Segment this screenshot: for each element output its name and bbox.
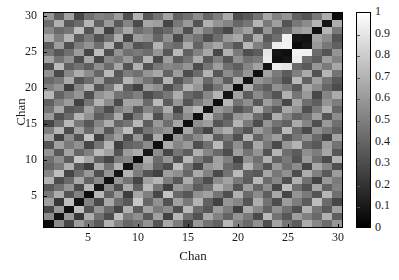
colorbar	[356, 12, 371, 228]
colorbar-tick-label: 0.8	[375, 48, 390, 61]
colorbar-tick-label: 0.6	[375, 91, 390, 104]
colorbar-tick-label: 1	[375, 5, 381, 18]
x-tick-mark	[288, 224, 289, 228]
colorbar-tick-mark	[357, 186, 360, 187]
x-tick-label: 15	[173, 231, 203, 244]
heatmap-plot-area	[43, 12, 343, 228]
y-tick-label: 5	[9, 189, 37, 202]
x-tick-label: 25	[273, 231, 303, 244]
x-tick-label: 10	[123, 231, 153, 244]
y-tick-mark	[43, 160, 47, 161]
colorbar-tick-mark	[357, 207, 360, 208]
heatmap-image	[44, 13, 342, 227]
colorbar-tick-mark	[357, 35, 360, 36]
colorbar-tick-label: 0.1	[375, 199, 390, 212]
colorbar-tick-mark	[357, 121, 360, 122]
x-tick-mark	[238, 224, 239, 228]
colorbar-tick-label: 0.5	[375, 113, 390, 126]
y-tick-label: 30	[9, 9, 37, 22]
y-tick-mark	[43, 196, 47, 197]
colorbar-tick-mark	[357, 56, 360, 57]
y-tick-mark	[43, 16, 47, 17]
y-axis-label: Chan	[13, 52, 29, 172]
colorbar-tick-label: 0.7	[375, 70, 390, 83]
x-tick-label: 20	[223, 231, 253, 244]
x-tick-mark	[138, 224, 139, 228]
x-axis-label: Chan	[43, 248, 343, 264]
y-tick-mark	[43, 52, 47, 53]
colorbar-tick-mark	[357, 99, 360, 100]
colorbar-tick-mark	[357, 78, 360, 79]
colorbar-tick-mark	[357, 143, 360, 144]
x-tick-label: 5	[73, 231, 103, 244]
y-tick-mark	[43, 124, 47, 125]
colorbar-tick-label: 0.4	[375, 135, 390, 148]
x-tick-mark	[188, 224, 189, 228]
figure-container: 51015202530 51015202530 Chan Chan 00.10.…	[0, 0, 399, 280]
y-tick-mark	[43, 88, 47, 89]
x-tick-mark	[338, 224, 339, 228]
x-tick-mark	[88, 224, 89, 228]
colorbar-tick-label: 0.9	[375, 27, 390, 40]
colorbar-tick-label: 0.3	[375, 156, 390, 169]
colorbar-tick-label: 0.2	[375, 178, 390, 191]
x-tick-label: 30	[323, 231, 353, 244]
colorbar-tick-mark	[357, 164, 360, 165]
colorbar-tick-label: 0	[375, 221, 381, 234]
